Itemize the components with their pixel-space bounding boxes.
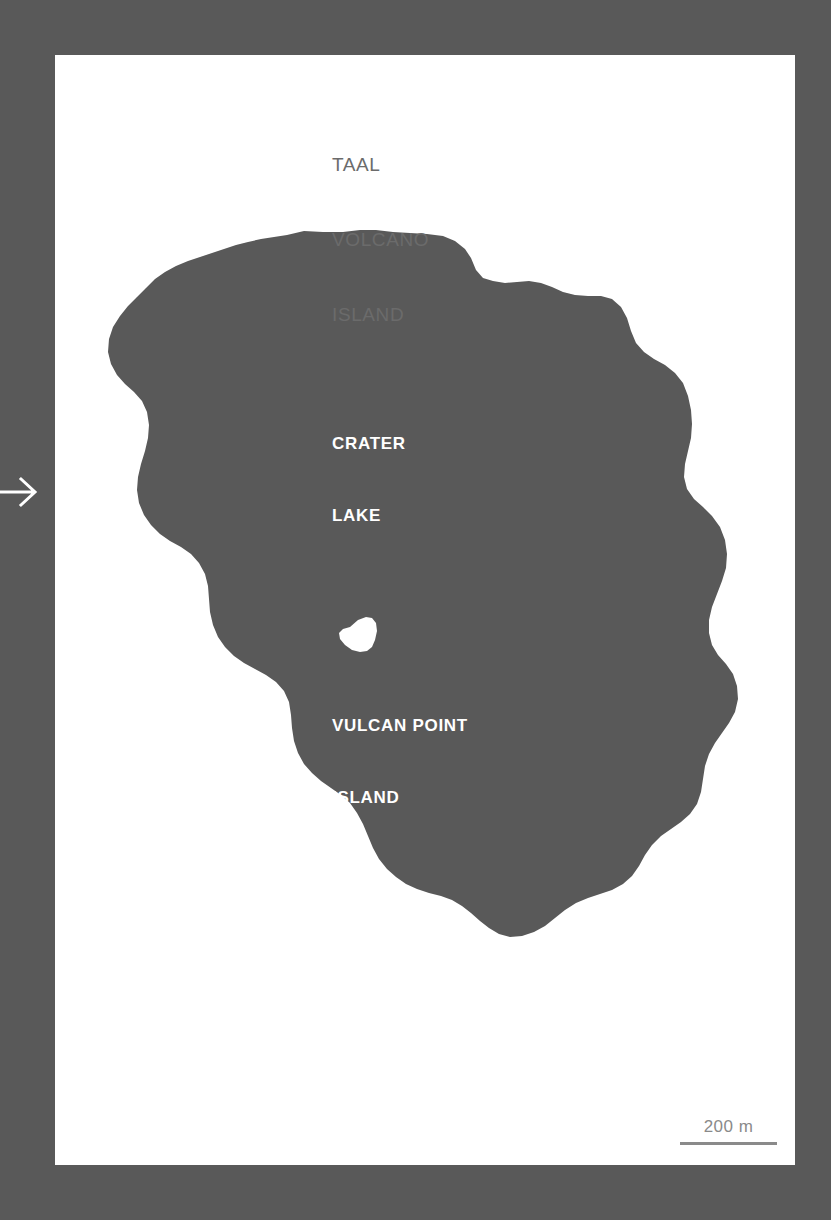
vulcan-point-island-label: VULCAN POINT ISLAND <box>332 666 468 858</box>
map-title: TAAL VOLCANO ISLAND <box>332 102 429 377</box>
scale-bar: 200 m <box>680 1117 777 1145</box>
vulcan-point-label-line-1: VULCAN POINT <box>332 714 468 738</box>
map-title-line-1: TAAL <box>332 152 429 177</box>
arrow-right-icon <box>0 472 44 512</box>
map-title-line-2: VOLCANO <box>332 227 429 252</box>
scale-bar-label: 200 m <box>680 1117 777 1137</box>
map-figure: TAAL VOLCANO ISLAND CRATER LAKE VULCAN P… <box>0 0 831 1220</box>
map-title-line-3: ISLAND <box>332 302 429 327</box>
crater-lake-label-line-1: CRATER <box>332 432 406 456</box>
vulcan-point-label-line-2: ISLAND <box>332 786 468 810</box>
scale-bar-line <box>680 1142 777 1145</box>
map-panel: TAAL VOLCANO ISLAND CRATER LAKE VULCAN P… <box>55 55 795 1165</box>
crater-lake-label-line-2: LAKE <box>332 504 406 528</box>
crater-lake-label: CRATER LAKE <box>332 384 406 576</box>
